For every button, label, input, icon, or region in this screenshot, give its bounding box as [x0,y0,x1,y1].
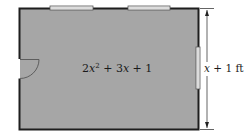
top-window-left [50,6,93,10]
arrow-up-icon [205,10,209,16]
arrow-down-icon [205,122,209,128]
top-window-right [128,6,170,10]
right-window [196,47,200,89]
area-expression: 2x2 + 3x + 1 [82,62,152,75]
height-dimension-label: x + 1 ft [204,62,244,74]
room-floor-plan-diagram: 2x2 + 3x + 1 x + 1 ft [0,0,248,135]
